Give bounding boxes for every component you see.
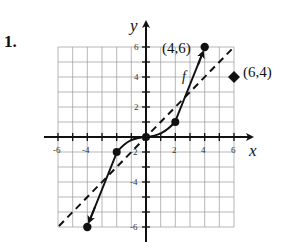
- f-arrow-up: [198, 52, 203, 65]
- svg-text:4: 4: [134, 72, 139, 82]
- function-graph: -6 -4 2 4 6 6 4 2 -2 -4 -6 y x (4,6) (6,…: [0, 0, 292, 252]
- svg-text:-6: -6: [130, 222, 138, 232]
- label-point-6-4: (6,4): [243, 64, 272, 81]
- label-point-4-6: (4,6): [162, 40, 191, 57]
- y-axis-label: y: [128, 16, 138, 35]
- point-2-1: [171, 118, 179, 126]
- svg-text:-2: -2: [130, 147, 138, 157]
- x-axis-label: x: [248, 141, 257, 160]
- axes: [44, 22, 252, 242]
- x-tick-labels: -6 -4 2 4 6: [53, 145, 236, 155]
- label-function-f: f: [182, 69, 188, 84]
- svg-text:-4: -4: [130, 177, 138, 187]
- svg-text:2: 2: [172, 145, 177, 155]
- point-neg2-neg1: [113, 148, 121, 156]
- svg-text:2: 2: [134, 102, 139, 112]
- point-4-6: [201, 43, 209, 51]
- point-origin: [142, 133, 150, 141]
- point-neg4-neg6: [83, 223, 91, 231]
- svg-text:-6: -6: [53, 145, 61, 155]
- svg-text:4: 4: [201, 145, 206, 155]
- svg-text:-4: -4: [82, 145, 90, 155]
- diamond-marker-6-4: [228, 71, 240, 83]
- svg-text:6: 6: [134, 42, 139, 52]
- svg-text:6: 6: [231, 145, 236, 155]
- f-arrow-down: [89, 207, 95, 222]
